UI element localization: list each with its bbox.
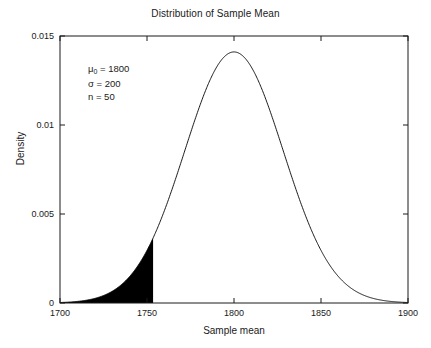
x-tick-label: 1700 — [50, 308, 70, 318]
annotation-mu0-subscript: 0 — [93, 68, 97, 75]
rejection-region-path — [60, 238, 153, 303]
parameter-annotations: μ0 = 1800 σ = 200 n = 50 — [88, 62, 129, 104]
plot-area-svg — [0, 0, 431, 348]
x-tick-label: 1900 — [398, 308, 418, 318]
y-axis-label: Density — [15, 99, 26, 199]
annotation-n: n = 50 — [88, 90, 129, 104]
y-tick-label: 0.005 — [8, 209, 54, 219]
chart-title: Distribution of Sample Mean — [0, 8, 431, 19]
x-axis-label: Sample mean — [60, 325, 408, 336]
x-tick-label: 1850 — [311, 308, 331, 318]
y-tick-label: 0 — [8, 298, 54, 308]
annotation-sigma: σ = 200 — [88, 77, 129, 91]
y-tick-label: 0.015 — [8, 31, 54, 41]
y-tick-label: 0.01 — [8, 120, 54, 130]
figure-canvas: Distribution of Sample Mean Sample mean … — [0, 0, 431, 348]
annotation-mu0: μ0 = 1800 — [88, 62, 129, 77]
x-tick-label: 1800 — [224, 308, 244, 318]
rejection-region-fill — [60, 238, 153, 303]
x-tick-label: 1750 — [137, 308, 157, 318]
annotation-mu0-value: = 1800 — [97, 63, 129, 74]
